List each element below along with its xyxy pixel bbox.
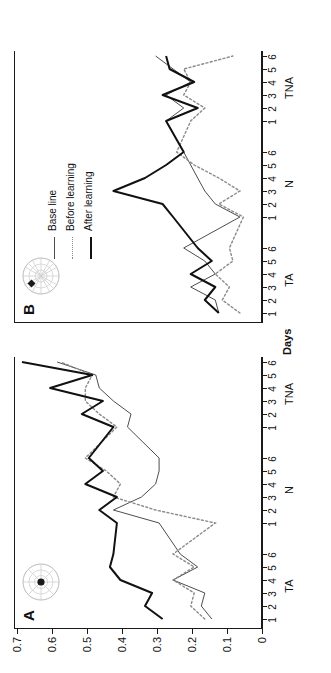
y-tick-0.5: 0.5 xyxy=(81,637,93,663)
x-label-b-tna-6: 6 xyxy=(267,51,278,63)
y-tick-0.6: 0.6 xyxy=(46,637,58,663)
x-group-b-ta: TA xyxy=(283,265,295,295)
y-tick-0.1: 0.1 xyxy=(221,637,233,663)
x-group-a-tna: TNA xyxy=(283,376,295,412)
panel-b-letter: B xyxy=(20,304,37,315)
x-label-b-n-1: 1 xyxy=(267,212,278,224)
x-group-a-ta: TA xyxy=(283,571,295,601)
x-label-b-ta-4: 4 xyxy=(267,269,278,281)
x-axis-line-a xyxy=(262,357,263,629)
x-label-b-n-3: 3 xyxy=(267,186,278,198)
x-label-a-tna-3: 3 xyxy=(267,396,278,408)
panel-a: A xyxy=(14,357,262,629)
panel-a-series-base-line xyxy=(57,362,212,619)
legend-item-after-learning: After learning xyxy=(82,129,100,259)
legend-label-after-learning: After learning xyxy=(83,172,94,231)
x-label-a-tna-2: 2 xyxy=(267,409,278,421)
y-tick-mark-0.3 xyxy=(157,629,158,634)
x-label-a-ta-5: 5 xyxy=(267,562,278,574)
legend: Base line Before learning After learning xyxy=(46,129,100,259)
y-tick-0.4: 0.4 xyxy=(116,637,128,663)
x-label-a-ta-3: 3 xyxy=(267,588,278,600)
x-label-b-ta-3: 3 xyxy=(267,282,278,294)
y-tick-0.2: 0.2 xyxy=(186,637,198,663)
x-label-a-n-4: 4 xyxy=(267,479,278,491)
y-tick-0.7: 0.7 xyxy=(11,637,23,663)
x-label-b-n-4: 4 xyxy=(267,173,278,185)
x-label-a-ta-6: 6 xyxy=(267,549,278,561)
x-label-a-n-3: 3 xyxy=(267,492,278,504)
legend-swatch-before-learning xyxy=(72,237,73,259)
x-label-b-tna-1: 1 xyxy=(267,116,278,128)
legend-item-base-line: Base line xyxy=(46,129,64,259)
x-label-a-n-2: 2 xyxy=(267,505,278,517)
x-label-a-tna-4: 4 xyxy=(267,383,278,395)
circular-arena-peripheral-platform-icon xyxy=(21,256,61,296)
y-tick-mark-0 xyxy=(262,629,263,634)
x-label-b-tna-5: 5 xyxy=(267,64,278,76)
y-tick-mark-0.2 xyxy=(192,629,193,634)
x-label-a-ta-2: 2 xyxy=(267,601,278,613)
panel-b-series-before-learning xyxy=(177,56,244,313)
circular-arena-center-platform-icon xyxy=(21,562,61,602)
figure-canvas: A xyxy=(0,0,331,673)
x-group-a-n: N xyxy=(283,475,295,505)
y-tick-mark-0.5 xyxy=(87,629,88,634)
y-tick-0: 0 xyxy=(256,637,268,663)
x-label-a-tna-1: 1 xyxy=(267,422,278,434)
panel-a-series-before-learning xyxy=(61,362,216,619)
legend-swatch-base-line xyxy=(54,237,55,259)
y-tick-0.3: 0.3 xyxy=(151,637,163,663)
y-tick-mark-0.7 xyxy=(17,629,18,634)
x-label-b-tna-3: 3 xyxy=(267,90,278,102)
x-label-b-ta-6: 6 xyxy=(267,243,278,255)
panel-b-series-after-learning xyxy=(113,56,218,313)
x-label-b-ta-1: 1 xyxy=(267,308,278,320)
legend-item-before-learning: Before learning xyxy=(64,129,82,259)
x-label-a-ta-1: 1 xyxy=(267,614,278,626)
x-label-b-ta-5: 5 xyxy=(267,256,278,268)
panel-b-series-base-line xyxy=(156,56,240,313)
x-label-b-tna-4: 4 xyxy=(267,77,278,89)
y-tick-mark-0.1 xyxy=(227,629,228,634)
legend-swatch-after-learning xyxy=(90,237,92,259)
legend-label-base-line: Base line xyxy=(47,190,58,231)
x-axis-title: Days xyxy=(281,329,293,355)
y-tick-mark-0.6 xyxy=(52,629,53,634)
x-label-b-n-6: 6 xyxy=(267,147,278,159)
x-label-b-n-5: 5 xyxy=(267,160,278,172)
x-label-b-ta-2: 2 xyxy=(267,295,278,307)
x-label-a-n-1: 1 xyxy=(267,518,278,530)
legend-label-before-learning: Before learning xyxy=(65,163,76,231)
x-label-a-ta-4: 4 xyxy=(267,575,278,587)
x-label-a-tna-5: 5 xyxy=(267,370,278,382)
x-group-b-tna: TNA xyxy=(283,70,295,106)
panel-a-letter: A xyxy=(20,610,37,621)
y-tick-mark-0.4 xyxy=(122,629,123,634)
figure-body: A xyxy=(0,0,331,673)
x-group-b-n: N xyxy=(283,169,295,199)
x-label-a-n-6: 6 xyxy=(267,453,278,465)
x-label-a-tna-6: 6 xyxy=(267,357,278,369)
x-label-a-n-5: 5 xyxy=(267,466,278,478)
x-label-b-tna-2: 2 xyxy=(267,103,278,115)
x-axis-line-b xyxy=(262,51,263,323)
x-label-b-n-2: 2 xyxy=(267,199,278,211)
